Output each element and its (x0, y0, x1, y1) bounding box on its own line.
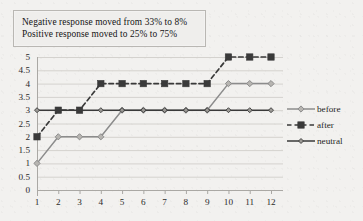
data-point-neutral (98, 108, 103, 113)
y-tick-label: 2 (8, 132, 30, 142)
legend-marker (298, 106, 304, 112)
data-point-after (204, 80, 210, 86)
x-tick-label: 6 (135, 197, 151, 207)
legend-label-before: before (317, 104, 340, 114)
legend-marker (298, 122, 304, 128)
data-point-before (76, 134, 82, 140)
x-tick-label: 1 (29, 197, 45, 207)
gridlines (37, 58, 283, 191)
data-point-before (268, 81, 274, 87)
y-tick-label: 3 (8, 105, 30, 115)
legend-item-after[interactable]: after (286, 117, 362, 133)
data-point-after (140, 80, 146, 86)
annotation-line-1: Negative response moved from 33% to 8% (22, 16, 198, 28)
y-tick-label: 0 (8, 185, 30, 195)
x-tick-label: 3 (72, 197, 88, 207)
data-point-neutral (35, 108, 40, 113)
data-point-after (119, 80, 125, 86)
data-point-after (247, 54, 253, 60)
chart-legend: beforeafterneutral (286, 101, 362, 149)
x-tick-label: 12 (263, 197, 279, 207)
y-tick-label: 0.5 (8, 172, 30, 182)
data-point-after (76, 107, 82, 113)
legend-swatch-before (286, 102, 316, 116)
legend-item-neutral[interactable]: neutral (286, 133, 362, 149)
x-tick-label: 10 (220, 197, 236, 207)
x-tick-label: 11 (242, 197, 258, 207)
y-tick-label: 1.5 (8, 145, 30, 155)
data-point-neutral (226, 108, 231, 113)
x-tick-label: 5 (114, 197, 130, 207)
y-tick-label: 3.5 (8, 92, 30, 102)
data-point-after (55, 107, 61, 113)
data-point-after (183, 80, 189, 86)
y-tick-label: 5 (8, 52, 30, 62)
y-tick-label: 4 (8, 79, 30, 89)
annotation-line-2: Positive response moved to 25% to 75% (22, 28, 198, 40)
x-tick-label: 9 (199, 197, 215, 207)
data-point-neutral (247, 108, 252, 113)
x-tick-label: 4 (93, 197, 109, 207)
y-tick-label: 1 (8, 158, 30, 168)
series-after (34, 54, 274, 140)
data-point-after (268, 54, 274, 60)
legend-item-before[interactable]: before (286, 101, 362, 117)
data-point-before (247, 81, 253, 87)
axis-lines (37, 57, 283, 196)
legend-label-after: after (317, 120, 334, 130)
legend-label-neutral: neutral (317, 136, 343, 146)
data-point-neutral (269, 108, 274, 113)
legend-marker (299, 139, 304, 144)
data-point-after (34, 134, 40, 140)
y-tick-label: 2.5 (8, 119, 30, 129)
x-tick-label: 2 (50, 197, 66, 207)
data-point-after (225, 54, 231, 60)
x-tick-label: 8 (178, 197, 194, 207)
annotation-callout: Negative response moved from 33% to 8% P… (13, 10, 206, 47)
data-point-after (98, 80, 104, 86)
data-point-after (161, 80, 167, 86)
x-tick-label: 7 (157, 197, 173, 207)
legend-swatch-neutral (286, 134, 316, 148)
legend-swatch-after (286, 118, 316, 132)
y-tick-label: 4.5 (8, 65, 30, 75)
